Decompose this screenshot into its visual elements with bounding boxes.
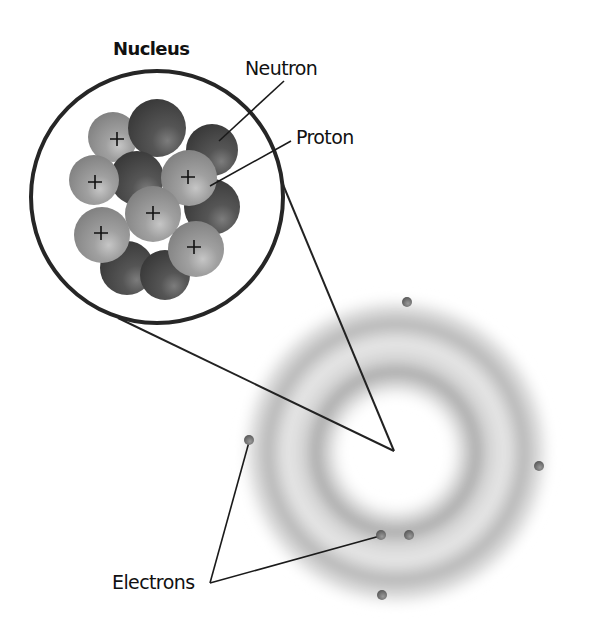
atom-diagram: Nucleus Neutron Proton Electrons [0, 0, 594, 641]
nucleus-inset [31, 71, 283, 323]
proton [74, 207, 130, 263]
electron [377, 590, 387, 600]
electron [404, 530, 414, 540]
electron [534, 461, 544, 471]
electron-cloud-halo [236, 292, 556, 612]
proton [69, 155, 119, 205]
nucleus-label: Nucleus [113, 38, 189, 59]
electrons-label: Electrons [112, 571, 194, 593]
electron [244, 435, 254, 445]
electron [376, 530, 386, 540]
neutron-label: Neutron [245, 57, 317, 79]
neutron [128, 99, 186, 157]
proton [168, 221, 224, 277]
electron [402, 297, 412, 307]
proton-label: Proton [296, 126, 354, 148]
electron-cloud [236, 292, 556, 612]
electron-leader-left [210, 442, 249, 583]
